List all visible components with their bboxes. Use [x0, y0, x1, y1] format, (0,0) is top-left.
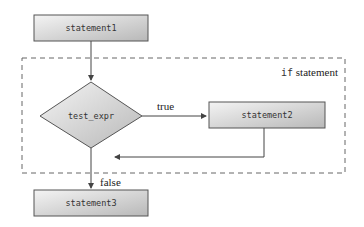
statement3-box: statement3: [34, 190, 148, 216]
container-label: if statement: [281, 66, 338, 78]
flowchart: if statement statement1 test_expr true s…: [0, 0, 364, 227]
test-expr-diamond: test_expr: [40, 82, 142, 148]
statement2-box: statement2: [209, 102, 325, 128]
svg-text:statement1: statement1: [65, 23, 116, 33]
statement1-box: statement1: [34, 15, 148, 41]
true-label: true: [157, 100, 174, 112]
svg-text:test_expr: test_expr: [68, 111, 114, 121]
svg-text:statement3: statement3: [65, 198, 116, 208]
false-label: false: [100, 176, 121, 188]
svg-text:statement2: statement2: [241, 110, 292, 120]
arrow-s2-return: [115, 128, 264, 157]
